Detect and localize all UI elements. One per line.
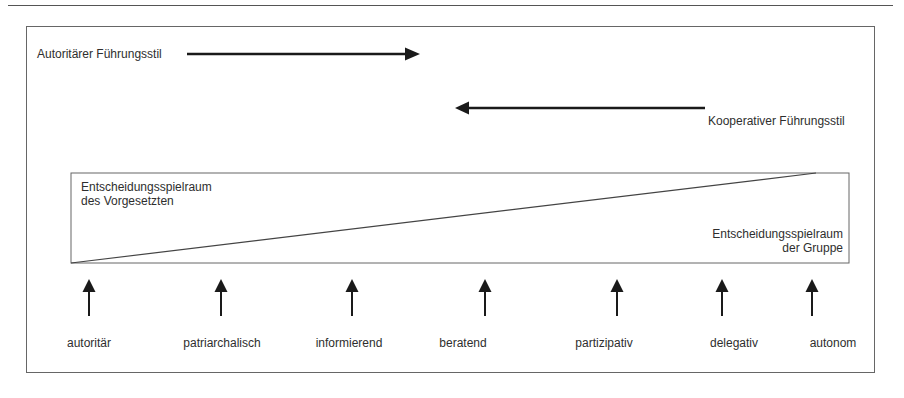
arrow-up-icon: [611, 279, 624, 316]
style-label-autoritaer: autoritär: [67, 336, 111, 350]
style-label-autonom: autonom: [810, 336, 857, 350]
superior-scope-label-line1: Entscheidungsspielraum: [81, 180, 212, 194]
authoritarian-style-label: Autoritärer Führungsstil: [37, 47, 162, 61]
style-label-delegativ: delegativ: [710, 336, 758, 350]
cooperative-style-label: Kooperativer Führungsstil: [708, 114, 845, 128]
arrow-up-icon: [83, 279, 96, 316]
style-label-informierend: informierend: [316, 336, 383, 350]
style-arrows: [83, 279, 819, 316]
arrow-right-icon: [187, 48, 420, 61]
arrow-up-icon: [479, 279, 492, 316]
group-scope-label-line2: der Gruppe: [782, 241, 843, 255]
arrow-up-icon: [716, 279, 729, 316]
style-label-partizipativ: partizipativ: [575, 336, 632, 350]
arrow-left-icon: [455, 102, 705, 115]
superior-scope-label-line2: des Vorgesetzten: [81, 194, 174, 208]
arrow-up-icon: [215, 279, 228, 316]
group-scope-label-line1: Entscheidungsspielraum: [712, 227, 843, 241]
arrow-up-icon: [346, 279, 359, 316]
style-label-patriarchalisch: patriarchalisch: [183, 336, 260, 350]
style-label-beratend: beratend: [439, 336, 486, 350]
arrow-up-icon: [806, 279, 819, 316]
